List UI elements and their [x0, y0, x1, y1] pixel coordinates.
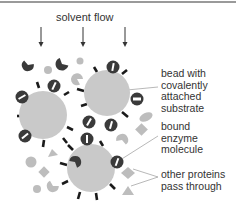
flow-arrows — [39, 27, 128, 47]
enzyme-label: bound enzyme molecule — [161, 121, 203, 156]
affinity-chromatography-diagram: solvent flow — [0, 0, 236, 209]
other-proteins-label: other proteins pass through — [161, 169, 225, 192]
bead-2 — [84, 70, 130, 116]
bead-label: bead with covalently attached substrate — [161, 68, 208, 114]
bead-3 — [67, 144, 115, 192]
